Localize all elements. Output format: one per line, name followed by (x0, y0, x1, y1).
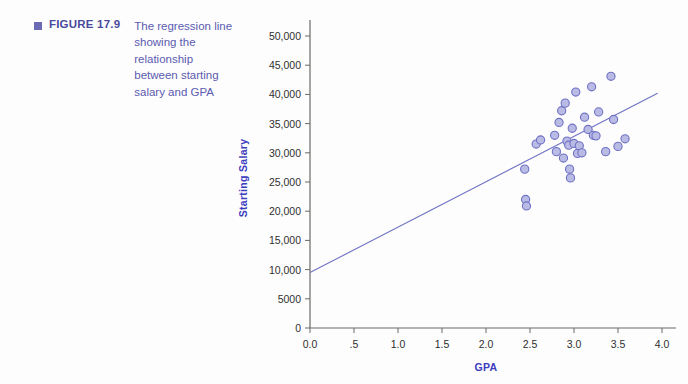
y-axis-tick-label: 40,000 (255, 88, 301, 100)
data-points (521, 72, 630, 210)
scatter-point (559, 154, 567, 162)
scatter-point (592, 132, 600, 140)
scatter-point (536, 136, 544, 144)
scatter-point (555, 118, 563, 126)
scatter-point (572, 88, 580, 96)
x-axis-tick-label: 2.5 (523, 338, 538, 350)
scatter-point (580, 113, 588, 121)
scatter-point (561, 99, 569, 107)
y-axis-ticks (305, 36, 310, 328)
scatter-point (558, 107, 566, 115)
y-axis-tick-label: 20,000 (255, 205, 301, 217)
x-axis-ticks (310, 328, 662, 333)
y-axis-tick-label: 25,000 (255, 176, 301, 188)
x-axis-tick-label: 2.0 (479, 338, 494, 350)
y-axis-tick-label: 35,000 (255, 118, 301, 130)
x-axis-tick-label: .5 (350, 338, 359, 350)
scatter-point (521, 165, 529, 173)
y-axis-tick-label: 50,000 (255, 30, 301, 42)
y-axis-tick-label: 30,000 (255, 147, 301, 159)
axes (310, 20, 676, 328)
y-axis-tick-label: 10,000 (255, 264, 301, 276)
y-axis-tick-label: 15,000 (255, 234, 301, 246)
x-axis-tick-label: 0.0 (303, 338, 318, 350)
scatter-point (568, 124, 576, 132)
scatter-point (566, 165, 574, 173)
x-axis-tick-label: 3.0 (567, 338, 582, 350)
y-axis-tick-label: 5000 (255, 293, 301, 305)
x-axis-title: GPA (475, 361, 498, 373)
x-axis-tick-label: 3.5 (611, 338, 626, 350)
regression-line-path (310, 93, 658, 272)
scatter-point (614, 142, 622, 150)
plot-canvas (0, 0, 688, 384)
scatter-point (610, 115, 618, 123)
scatter-point (566, 174, 574, 182)
scatter-point (551, 131, 559, 139)
y-axis-tick-label: 0 (255, 322, 301, 334)
scatter-point (552, 148, 560, 156)
scatter-point (588, 83, 596, 91)
scatter-point (522, 202, 530, 210)
scatter-plot: 0500010,00015,00020,00025,00030,00035,00… (0, 0, 688, 384)
figure-page: FIGURE 17.9 The regression line showing … (0, 0, 688, 384)
x-axis-tick-label: 4.0 (655, 338, 670, 350)
scatter-point (607, 72, 615, 80)
scatter-point (602, 148, 610, 156)
scatter-point (578, 149, 586, 157)
x-axis-tick-label: 1.5 (435, 338, 450, 350)
scatter-point (595, 108, 603, 116)
y-axis-title: Starting Salary (237, 139, 249, 218)
x-axis-tick-label: 1.0 (391, 338, 406, 350)
scatter-point (621, 135, 629, 143)
regression-line (310, 93, 658, 272)
y-axis-tick-label: 45,000 (255, 59, 301, 71)
